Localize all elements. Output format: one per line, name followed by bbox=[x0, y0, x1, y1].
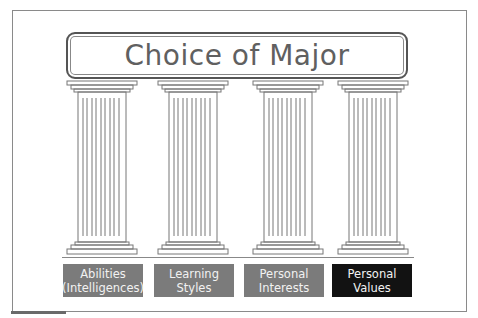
column-icon bbox=[66, 80, 138, 258]
pillar-column-4 bbox=[337, 80, 409, 258]
title-banner: Choice of Major bbox=[66, 32, 408, 79]
column-icon bbox=[337, 80, 409, 258]
column-icon bbox=[157, 80, 229, 258]
label-line-2: Styles bbox=[177, 281, 212, 295]
column-icon bbox=[252, 80, 324, 258]
label-line-2: Interests bbox=[259, 281, 309, 295]
pillar-column-3 bbox=[252, 80, 324, 258]
diagram-title: Choice of Major bbox=[68, 39, 406, 72]
label-line-2: Values bbox=[353, 281, 391, 295]
pillar-column-2 bbox=[157, 80, 229, 258]
label-line-2: (Intelligences) bbox=[62, 281, 144, 295]
pillar-label-personal-interests: Personal Interests bbox=[244, 264, 324, 297]
pillar-label-personal-values: Personal Values bbox=[332, 264, 412, 297]
label-line-1: Abilities bbox=[80, 267, 126, 281]
pillar-column-1 bbox=[66, 80, 138, 258]
pillar-label-learning-styles: Learning Styles bbox=[154, 264, 234, 297]
ground-line bbox=[62, 257, 414, 258]
frame-shadow bbox=[11, 311, 66, 314]
label-line-1: Personal bbox=[348, 267, 397, 281]
label-line-1: Personal bbox=[260, 267, 309, 281]
label-line-1: Learning bbox=[169, 267, 219, 281]
pillar-label-abilities: Abilities (Intelligences) bbox=[63, 264, 143, 297]
